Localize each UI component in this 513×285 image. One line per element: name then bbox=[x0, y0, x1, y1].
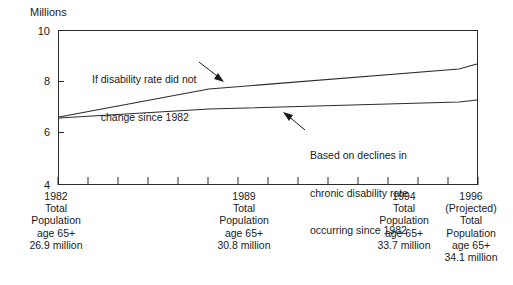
x-axis-group-1989: 1989 Total Population age 65+ 30.8 milli… bbox=[196, 190, 292, 251]
annotation-lower-line-1: Based on declines in bbox=[310, 149, 408, 162]
x-axis-1996-year: 1996 bbox=[430, 190, 512, 202]
annotation-upper-line-2: change since 1982 bbox=[92, 111, 196, 124]
x-axis-1982-year: 1982 bbox=[8, 190, 104, 202]
x-axis-1982-line2: Total bbox=[8, 202, 104, 214]
chart-container: Millions 10 8 6 4 bbox=[0, 0, 513, 285]
annotation-upper: If disability rate did not change since … bbox=[92, 48, 196, 148]
annotation-upper-line-1: If disability rate did not bbox=[92, 73, 196, 86]
x-axis-1982-line5: 26.9 million bbox=[8, 239, 104, 251]
x-axis-1989-year: 1989 bbox=[196, 190, 292, 202]
x-axis-group-1996: 1996 (Projected) Total Population age 65… bbox=[430, 190, 512, 263]
x-axis-1996-line4: Population bbox=[430, 227, 512, 239]
x-axis-group-1982: 1982 Total Population age 65+ 26.9 milli… bbox=[8, 190, 104, 251]
x-axis-1982-line3: Population bbox=[8, 214, 104, 226]
y-tick-label-8: 8 bbox=[26, 76, 50, 87]
x-axis-1989-line5: 30.8 million bbox=[196, 239, 292, 251]
x-axis-1996-line3: Total bbox=[430, 214, 512, 226]
x-axis-1989-line4: age 65+ bbox=[196, 227, 292, 239]
y-tick-label-10: 10 bbox=[26, 26, 50, 37]
x-axis-1996-line6: 34.1 million bbox=[430, 251, 512, 263]
y-tick-mark-6 bbox=[58, 132, 64, 133]
y-tick-mark-8 bbox=[58, 81, 64, 82]
x-axis-1996-line5: age 65+ bbox=[430, 239, 512, 251]
y-axis-title: Millions bbox=[30, 6, 67, 19]
y-tick-label-6: 6 bbox=[26, 127, 50, 138]
x-axis-1989-line2: Total bbox=[196, 202, 292, 214]
x-axis-1982-line4: age 65+ bbox=[8, 227, 104, 239]
x-axis-1989-line3: Population bbox=[196, 214, 292, 226]
x-axis-1996-line2: (Projected) bbox=[430, 202, 512, 214]
